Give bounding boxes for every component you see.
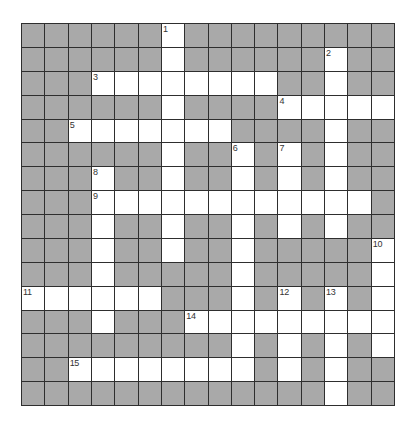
cell-entry (92, 311, 114, 334)
crossword-cell[interactable] (232, 191, 254, 214)
crossword-cell[interactable] (92, 120, 114, 143)
crossword-cell[interactable] (325, 334, 347, 357)
crossword-cell[interactable] (162, 72, 184, 95)
crossword-cell[interactable] (139, 358, 161, 381)
crossword-cell[interactable] (92, 263, 114, 286)
crossword-cell[interactable] (278, 358, 300, 381)
crossword-cell[interactable] (302, 96, 324, 119)
crossword-cell[interactable] (232, 263, 254, 286)
crossword-cell[interactable] (232, 72, 254, 95)
crossword-cell[interactable] (325, 96, 347, 119)
crossword-cell[interactable] (372, 334, 394, 357)
crossword-cell[interactable] (302, 191, 324, 214)
crossword-cell[interactable] (115, 72, 137, 95)
crossword-cell[interactable] (325, 358, 347, 381)
crossword-cell[interactable]: 4 (278, 96, 300, 119)
crossword-cell[interactable] (232, 334, 254, 357)
crossword-cell[interactable] (115, 358, 137, 381)
crossword-cell[interactable] (232, 167, 254, 190)
crossword-cell[interactable] (232, 311, 254, 334)
crossword-cell[interactable] (325, 311, 347, 334)
crossword-cell[interactable] (278, 311, 300, 334)
crossword-cell[interactable] (325, 167, 347, 190)
crossword-cell[interactable] (139, 191, 161, 214)
crossword-cell[interactable] (372, 311, 394, 334)
crossword-cell[interactable]: 5 (69, 120, 91, 143)
crossword-cell[interactable] (372, 96, 394, 119)
crossword-cell[interactable] (92, 239, 114, 262)
crossword-cell[interactable] (139, 120, 161, 143)
crossword-cell[interactable] (115, 120, 137, 143)
crossword-cell[interactable]: 15 (69, 358, 91, 381)
crossword-cell[interactable] (45, 287, 67, 310)
crossword-cell[interactable]: 2 (325, 48, 347, 71)
crossword-cell[interactable] (139, 287, 161, 310)
cell-entry (372, 311, 394, 334)
crossword-cell[interactable] (162, 215, 184, 238)
crossword-cell[interactable] (162, 239, 184, 262)
crossword-cell[interactable] (348, 191, 370, 214)
crossword-block (69, 263, 91, 286)
crossword-cell[interactable] (162, 358, 184, 381)
crossword-cell[interactable]: 12 (278, 287, 300, 310)
crossword-cell[interactable] (162, 167, 184, 190)
crossword-cell[interactable] (278, 167, 300, 190)
crossword-cell[interactable] (325, 120, 347, 143)
crossword-cell[interactable] (325, 72, 347, 95)
crossword-cell[interactable] (232, 239, 254, 262)
crossword-cell[interactable] (348, 96, 370, 119)
crossword-cell[interactable] (162, 96, 184, 119)
crossword-cell[interactable] (255, 191, 277, 214)
crossword-cell[interactable] (209, 311, 231, 334)
crossword-cell[interactable]: 6 (232, 143, 254, 166)
crossword-cell[interactable] (185, 120, 207, 143)
crossword-cell[interactable] (278, 334, 300, 357)
crossword-cell[interactable] (325, 215, 347, 238)
crossword-cell[interactable] (302, 311, 324, 334)
crossword-cell[interactable] (278, 215, 300, 238)
crossword-cell[interactable]: 3 (92, 72, 114, 95)
crossword-cell[interactable] (255, 72, 277, 95)
crossword-cell[interactable] (139, 72, 161, 95)
crossword-cell[interactable]: 10 (372, 239, 394, 262)
crossword-cell[interactable] (162, 191, 184, 214)
crossword-cell[interactable]: 7 (278, 143, 300, 166)
crossword-cell[interactable] (209, 191, 231, 214)
crossword-cell[interactable]: 9 (92, 191, 114, 214)
crossword-cell[interactable] (255, 311, 277, 334)
crossword-cell[interactable] (92, 311, 114, 334)
crossword-cell[interactable] (92, 358, 114, 381)
crossword-cell[interactable] (92, 287, 114, 310)
crossword-block (302, 239, 324, 262)
crossword-cell[interactable] (209, 120, 231, 143)
crossword-block (348, 48, 370, 71)
crossword-cell[interactable] (278, 191, 300, 214)
crossword-cell[interactable] (92, 215, 114, 238)
crossword-cell[interactable]: 11 (22, 287, 44, 310)
crossword-cell[interactable] (115, 287, 137, 310)
crossword-cell[interactable] (372, 263, 394, 286)
crossword-cell[interactable]: 1 (162, 24, 184, 47)
crossword-cell[interactable] (162, 48, 184, 71)
crossword-cell[interactable] (162, 143, 184, 166)
crossword-cell[interactable] (209, 358, 231, 381)
crossword-cell[interactable] (232, 287, 254, 310)
crossword-cell[interactable] (325, 191, 347, 214)
crossword-cell[interactable]: 8 (92, 167, 114, 190)
crossword-cell[interactable]: 14 (185, 311, 207, 334)
crossword-cell[interactable] (185, 358, 207, 381)
crossword-cell[interactable] (325, 382, 347, 405)
crossword-cell[interactable] (232, 358, 254, 381)
crossword-cell[interactable]: 13 (325, 287, 347, 310)
crossword-cell[interactable] (185, 191, 207, 214)
crossword-cell[interactable] (348, 311, 370, 334)
crossword-cell[interactable] (209, 72, 231, 95)
crossword-cell[interactable] (69, 287, 91, 310)
crossword-cell[interactable] (185, 72, 207, 95)
crossword-cell[interactable] (232, 215, 254, 238)
crossword-cell[interactable] (325, 143, 347, 166)
crossword-cell[interactable] (115, 191, 137, 214)
crossword-cell[interactable] (372, 287, 394, 310)
cell-entry (92, 239, 114, 262)
crossword-cell[interactable] (162, 120, 184, 143)
